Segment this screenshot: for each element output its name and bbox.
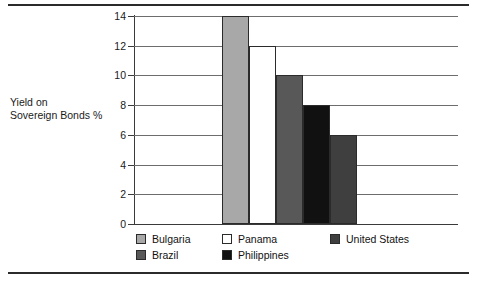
legend-item-brazil: Brazil: [136, 247, 178, 263]
y-tick-label-14: 14: [100, 11, 126, 22]
legend-swatch-icon: [222, 250, 232, 260]
chart-legend: BulgariaPanamaUnited States BrazilPhilip…: [134, 231, 464, 265]
y-tick-label-10: 10: [100, 70, 126, 81]
bar-brazil: [276, 75, 303, 224]
legend-swatch-icon: [136, 234, 146, 244]
y-tick-label-8: 8: [100, 100, 126, 111]
bar-united-states: [330, 135, 357, 224]
y-axis-title-line-2: Sovereign Bonds %: [10, 109, 118, 122]
y-tick-label-4: 4: [100, 160, 126, 171]
legend-swatch-icon: [330, 234, 340, 244]
legend-swatch-icon: [136, 250, 146, 260]
y-tick-label-12: 12: [100, 41, 126, 52]
legend-item-panama: Panama: [222, 231, 277, 247]
legend-label: Panama: [238, 233, 277, 245]
legend-swatch-icon: [222, 234, 232, 244]
bar-philippines: [303, 105, 330, 224]
bar-chart-figure: Yield on Sovereign Bonds % 14121086420 B…: [0, 0, 477, 284]
y-tick-label-6: 6: [100, 130, 126, 141]
legend-item-united-states: United States: [330, 231, 409, 247]
bars-layer: [134, 16, 458, 224]
gridline-0: [134, 224, 458, 225]
legend-item-bulgaria: Bulgaria: [136, 231, 191, 247]
y-tick-label-0: 0: [100, 219, 126, 230]
bottom-divider-rule: [8, 272, 469, 274]
bar-bulgaria: [222, 16, 249, 224]
legend-label: United States: [346, 233, 409, 245]
legend-row: BulgariaPanamaUnited States: [134, 231, 464, 247]
legend-label: Bulgaria: [152, 233, 191, 245]
plot-area: 14121086420: [134, 16, 458, 224]
bar-panama: [249, 46, 276, 224]
legend-item-philippines: Philippines: [222, 247, 289, 263]
legend-label: Brazil: [152, 249, 178, 261]
top-divider-rule: [8, 4, 469, 6]
legend-row: BrazilPhilippines: [134, 247, 464, 263]
y-tick-mark-0: [128, 224, 134, 225]
y-tick-label-2: 2: [100, 189, 126, 200]
legend-label: Philippines: [238, 249, 289, 261]
